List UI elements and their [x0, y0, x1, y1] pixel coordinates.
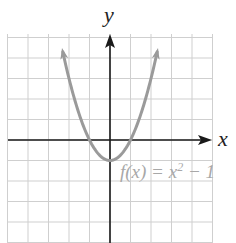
function-label-main: f(x) = x	[120, 161, 177, 182]
function-label-constant: − 1	[183, 161, 215, 182]
y-axis	[105, 34, 115, 243]
function-label: f(x) = x2 − 1	[120, 160, 215, 183]
x-axis-label: x	[218, 126, 228, 152]
y-axis-label: y	[104, 2, 114, 28]
graph-canvas	[0, 0, 236, 243]
